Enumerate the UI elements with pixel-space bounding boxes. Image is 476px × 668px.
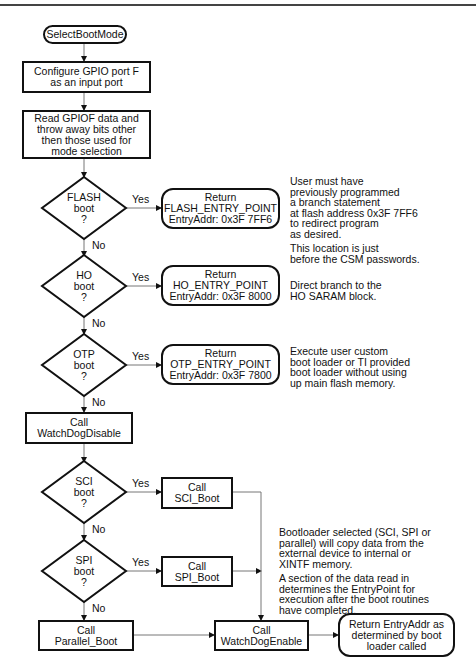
spi-decision-label: SPI boot ? — [54, 555, 114, 588]
step-text: Call — [188, 561, 206, 572]
sci-decision-label: SCI boot ? — [54, 476, 114, 509]
return-otp-box: Return OTP_ENTRY_POINT EntryAddr: 0x3F 7… — [161, 344, 280, 385]
step-text: WatchDogDisable — [37, 428, 121, 439]
step-text: Call — [77, 625, 95, 636]
note-line: as desired. — [290, 229, 420, 240]
flash-note: User must have previously programmed a b… — [290, 176, 420, 268]
return-text: loader called — [367, 641, 427, 652]
note-line: A section of the data read in — [279, 573, 431, 584]
note-line: execution after the boot routines — [279, 594, 431, 605]
no-label: No — [92, 602, 105, 614]
yes-label: Yes — [132, 556, 149, 568]
otp-decision-label: OTP boot ? — [54, 349, 114, 382]
note-line: This location is just — [290, 243, 420, 254]
otp-note: Execute user custom boot loader or TI pr… — [290, 346, 410, 392]
return-ho-box: Return HO_ENTRY_POINT EntryAddr: 0x3F 80… — [161, 265, 280, 306]
return-text: determined by boot — [352, 630, 442, 641]
return-text: EntryAddr: 0x3F 7FF6 — [169, 214, 272, 225]
no-label: No — [92, 239, 105, 251]
read-line-3: then those used for — [42, 135, 132, 146]
step-text: SPI_Boot — [175, 572, 219, 583]
return-flash-box: Return FLASH_ENTRY_POINT EntryAddr: 0x3F… — [161, 188, 280, 229]
step-text: Parallel_Boot — [55, 636, 117, 647]
decision-text: ? — [54, 292, 114, 303]
return-text: EntryAddr: 0x3F 7800 — [169, 370, 271, 381]
yes-label: Yes — [132, 477, 149, 489]
step-text: SCI_Boot — [175, 493, 220, 504]
read-line-1: Read GPIOF data and — [34, 113, 138, 124]
watchdog-enable-box: Call WatchDogEnable — [214, 620, 309, 651]
note-line: have completed. — [279, 605, 431, 616]
spi-boot-box: Call SPI_Boot — [161, 556, 233, 587]
step-text: WatchDogEnable — [221, 636, 302, 647]
decision-text: ? — [54, 371, 114, 382]
start-label: SelectBootMode — [46, 29, 123, 40]
read-line-4: mode selection — [51, 146, 122, 157]
ho-note: Direct branch to the HO SARAM block. — [290, 280, 382, 305]
note-line: Direct branch to the — [290, 280, 382, 291]
note-line: before the CSM passwords. — [290, 254, 420, 265]
decision-text: ? — [54, 498, 114, 509]
read-line-2: throw away bits other — [37, 124, 136, 135]
step-text: Call — [252, 625, 270, 636]
no-label: No — [92, 317, 105, 329]
return-text: Return EntryAddr as — [349, 619, 444, 630]
note-line: User must have — [290, 176, 420, 187]
ho-decision-label: HO boot ? — [54, 270, 114, 303]
note-line: XINTF memory. — [279, 559, 431, 570]
note-line: a branch statement — [290, 197, 420, 208]
watchdog-disable-box: Call WatchDogDisable — [25, 412, 133, 444]
note-line: Execute user custom — [290, 346, 410, 357]
read-gpiof-box: Read GPIOF data and throw away bits othe… — [22, 110, 151, 159]
configure-gpio-box: Configure GPIO port F as an input port — [22, 61, 151, 93]
start-terminal: SelectBootMode — [43, 25, 127, 44]
note-line: HO SARAM block. — [290, 291, 382, 302]
return-text: EntryAddr: 0x3F 8000 — [169, 291, 271, 302]
return-entryaddr-box: Return EntryAddr as determined by boot l… — [338, 613, 455, 657]
note-line: to redirect program — [290, 218, 420, 229]
note-line: boot loader without using — [290, 367, 410, 378]
sci-boot-box: Call SCI_Boot — [161, 477, 233, 509]
yes-label: Yes — [132, 193, 149, 205]
bootloader-note: Bootloader selected (SCI, SPI or paralle… — [279, 527, 431, 619]
no-label: No — [92, 523, 105, 535]
note-line: Bootloader selected (SCI, SPI or — [279, 527, 431, 538]
yes-label: Yes — [132, 350, 149, 362]
decision-text: ? — [54, 577, 114, 588]
no-label: No — [92, 396, 105, 408]
note-line: external device to internal or — [279, 548, 431, 559]
note-line: up main flash memory. — [290, 378, 410, 389]
parallel-boot-box: Call Parallel_Boot — [38, 620, 134, 651]
decision-text: ? — [54, 214, 114, 225]
configure-line-2: as an input port — [50, 77, 122, 88]
yes-label: Yes — [132, 271, 149, 283]
flash-decision-label: FLASH boot ? — [54, 192, 114, 225]
